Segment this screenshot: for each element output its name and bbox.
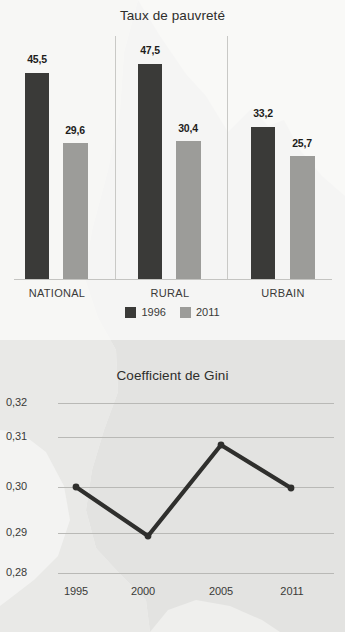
group-separator-1 [115, 36, 116, 279]
xtick-label-2005: 2005 [191, 585, 251, 597]
poverty-rate-chart: Taux de pauvreté 45,5 29,6 NATIONAL 47,5… [0, 0, 345, 340]
bar-category-label-urbain: URBAIN [238, 287, 328, 299]
xtick-label-2000: 2000 [113, 585, 173, 597]
bar-value-urbain-1996: 33,2 [239, 107, 287, 119]
bar-rural-2011 [176, 141, 201, 279]
legend-swatch-2011-icon [180, 307, 191, 318]
bar-baseline-axis [14, 279, 332, 280]
xtick-label-1995: 1995 [46, 585, 106, 597]
legend-label-2011: 2011 [196, 306, 220, 318]
bar-plot-area: 45,5 29,6 NATIONAL 47,5 30,4 RURAL 33,2 … [0, 0, 345, 340]
bar-national-2011 [63, 143, 88, 279]
bar-category-label-rural: RURAL [125, 287, 215, 299]
bar-chart-legend: 1996 2011 [0, 306, 345, 318]
legend-label-1996: 1996 [141, 306, 165, 318]
legend-item-2011[interactable]: 2011 [180, 306, 220, 318]
bar-value-rural-2011: 30,4 [164, 122, 212, 134]
bar-national-1996 [25, 73, 49, 279]
bar-rural-1996 [138, 64, 162, 279]
legend-item-1996[interactable]: 1996 [125, 306, 165, 318]
bar-urbain-1996 [251, 127, 275, 279]
bar-value-urbain-2011: 25,7 [278, 137, 326, 149]
bar-urbain-2011 [290, 156, 315, 279]
bar-category-label-national: NATIONAL [12, 287, 102, 299]
legend-swatch-1996-icon [125, 307, 136, 318]
xtick-label-2011: 2011 [262, 585, 322, 597]
bar-value-national-2011: 29,6 [51, 124, 99, 136]
group-separator-2 [227, 36, 228, 279]
bar-value-rural-1996: 47,5 [126, 44, 174, 56]
bar-value-national-1996: 45,5 [13, 53, 61, 65]
gini-coefficient-chart: Coefficient de Gini 0,32 0,31 0,30 0,29 … [0, 340, 345, 632]
infographic-page: Taux de pauvreté 45,5 29,6 NATIONAL 47,5… [0, 0, 345, 632]
